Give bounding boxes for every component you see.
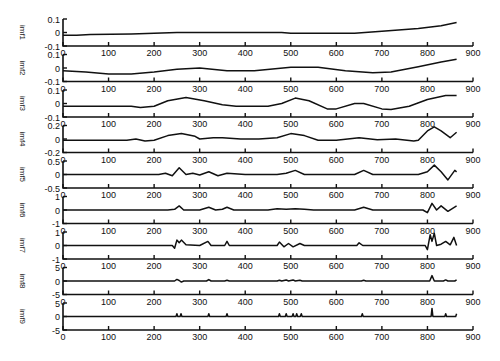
x-tick-label: 700 — [374, 48, 389, 58]
x-tick-label: 200 — [147, 226, 162, 236]
x-tick-label: 200 — [147, 155, 162, 165]
panel-9-series-line — [63, 308, 457, 316]
y-tick-label: 0 — [55, 170, 60, 180]
x-tick-label: 400 — [238, 261, 253, 271]
x-tick-label: 600 — [329, 332, 344, 342]
panel-7-ylabel: imf7 — [18, 238, 27, 254]
x-tick-label: 700 — [374, 297, 389, 307]
x-tick-label: 500 — [283, 261, 298, 271]
y-tick-label: 0.5 — [47, 157, 60, 167]
x-tick-label: 500 — [283, 119, 298, 129]
x-tick-label: 300 — [192, 190, 207, 200]
x-tick-label: 300 — [192, 84, 207, 94]
x-tick-label: 100 — [101, 48, 116, 58]
x-tick-label: 900 — [465, 332, 480, 342]
x-tick-label: 100 — [101, 297, 116, 307]
y-tick-label: 1 — [55, 192, 60, 202]
imf-decomposition-chart: 0.10-0.10100200300400500600700800900imf1… — [0, 0, 500, 361]
x-tick-label: 900 — [465, 261, 480, 271]
x-tick-label: 800 — [420, 84, 435, 94]
x-tick-label: 700 — [374, 84, 389, 94]
x-tick-label: 200 — [147, 332, 162, 342]
x-tick-label: 500 — [283, 226, 298, 236]
x-tick-label: 500 — [283, 84, 298, 94]
panel-2-ylabel: imf2 — [18, 60, 27, 76]
y-tick-label: 0 — [55, 28, 60, 38]
y-tick-label: 0.2 — [47, 121, 60, 131]
x-tick-label: 900 — [465, 297, 480, 307]
x-tick-label: 600 — [329, 48, 344, 58]
y-tick-label: 0 — [55, 312, 60, 322]
x-tick-label: 300 — [192, 48, 207, 58]
x-tick-label: 600 — [329, 84, 344, 94]
x-tick-label: 700 — [374, 332, 389, 342]
x-tick-label: 400 — [238, 332, 253, 342]
x-tick-label: 400 — [238, 297, 253, 307]
x-tick-label: 200 — [147, 190, 162, 200]
x-tick-label: 900 — [465, 119, 480, 129]
panel-2-series-line — [63, 59, 457, 74]
x-tick-label: 900 — [465, 84, 480, 94]
x-tick-label: 100 — [101, 261, 116, 271]
panel-4-ylabel: imf4 — [18, 131, 27, 147]
panel-8-ylabel: imf8 — [18, 273, 27, 289]
x-tick-label: 800 — [420, 190, 435, 200]
y-tick-label: 0 — [55, 135, 60, 145]
x-tick-label: 600 — [329, 155, 344, 165]
x-tick-label: 100 — [101, 226, 116, 236]
x-tick-label: 100 — [101, 332, 116, 342]
x-tick-label: 100 — [101, 155, 116, 165]
y-tick-label: 1 — [55, 228, 60, 238]
x-tick-label: 700 — [374, 190, 389, 200]
y-tick-label: 0 — [55, 206, 60, 216]
x-tick-label: 500 — [283, 190, 298, 200]
x-tick-label: 400 — [238, 48, 253, 58]
panel-6-ylabel: imf6 — [18, 202, 27, 218]
x-tick-label: 300 — [192, 226, 207, 236]
x-tick-label: 700 — [374, 261, 389, 271]
panel-5-ylabel: imf5 — [18, 167, 27, 183]
panel-3-axes — [63, 90, 473, 117]
x-tick-label: 300 — [192, 261, 207, 271]
x-tick-label: 800 — [420, 297, 435, 307]
x-tick-label: 700 — [374, 119, 389, 129]
x-tick-label: 600 — [329, 226, 344, 236]
x-tick-label: 500 — [283, 332, 298, 342]
x-tick-label: 800 — [420, 155, 435, 165]
x-tick-label: 900 — [465, 226, 480, 236]
x-tick-label: 800 — [420, 226, 435, 236]
y-tick-label: 0 — [55, 241, 60, 251]
x-tick-label: 400 — [238, 190, 253, 200]
x-tick-label: 400 — [238, 155, 253, 165]
panel-1-ylabel: imf1 — [18, 25, 27, 41]
x-tick-label: 200 — [147, 119, 162, 129]
x-tick-label: 400 — [238, 119, 253, 129]
y-tick-label: 0 — [55, 99, 60, 109]
x-tick-label: 200 — [147, 297, 162, 307]
panel-6-series-line — [63, 203, 457, 212]
panel-7-series-line — [63, 233, 457, 249]
x-tick-label: 100 — [101, 119, 116, 129]
y-tick-label: -5 — [52, 326, 60, 336]
x-tick-label: 200 — [147, 84, 162, 94]
x-tick-label: 400 — [238, 226, 253, 236]
y-tick-label: 0.1 — [47, 15, 60, 25]
y-tick-label: 0.1 — [47, 86, 60, 96]
x-tick-label: 500 — [283, 297, 298, 307]
panel-1-series-line — [63, 22, 457, 35]
x-tick-label: 700 — [374, 226, 389, 236]
x-tick-label: 100 — [101, 190, 116, 200]
y-tick-label: 0.1 — [47, 50, 60, 60]
x-tick-label: 100 — [101, 84, 116, 94]
y-tick-label: 5 — [55, 263, 60, 273]
x-tick-label: 900 — [465, 190, 480, 200]
x-tick-label: 600 — [329, 119, 344, 129]
x-tick-label: 300 — [192, 155, 207, 165]
panel-3-series-line — [63, 95, 457, 109]
x-tick-label: 800 — [420, 48, 435, 58]
x-tick-label: 200 — [147, 48, 162, 58]
x-tick-label: 800 — [420, 332, 435, 342]
x-tick-label: 600 — [329, 261, 344, 271]
x-tick-label: 200 — [147, 261, 162, 271]
y-tick-label: 5 — [55, 299, 60, 309]
